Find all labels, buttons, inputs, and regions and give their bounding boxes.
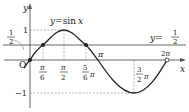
point-pi6 (41, 43, 45, 47)
point-2pi-open (165, 58, 169, 62)
x-tick-5pi6-num: 5 (83, 64, 87, 72)
sine-graph-figure: y x O 1 1 2 −1 y=sinx y= 1 2 π 6 π 2 5 6… (0, 0, 189, 112)
line-label: y= (149, 33, 163, 43)
x-tick-5pi6-pi: π (89, 71, 95, 79)
x-axis-label: x (180, 64, 185, 74)
y-tick-neg1: −1 (15, 89, 27, 98)
x-tick-pi2-den: 2 (61, 74, 65, 82)
x-tick-pi6-num: π (39, 64, 45, 72)
x-tick-pi2-num: π (60, 64, 66, 72)
x-tick-3pi2-pi: π (143, 73, 149, 81)
guide-lines (30, 30, 134, 93)
x-tick-pi6-den: 6 (40, 74, 45, 82)
y-axis-arrow-icon (28, 3, 32, 9)
x-axis-arrow-icon (180, 58, 186, 62)
x-tick-2pi: 2π (161, 50, 170, 58)
line-label-num: 1 (173, 29, 177, 37)
graph-canvas: y x O 1 1 2 −1 y=sinx y= 1 2 π 6 π 2 5 6… (0, 0, 189, 112)
y-tick-1: 1 (23, 26, 28, 35)
y-tick-half-num: 1 (9, 29, 13, 37)
y-axis-label: y (22, 3, 29, 13)
x-tick-3pi2-den: 2 (137, 76, 141, 84)
x-tick-pi: π (97, 50, 104, 59)
origin-label: O (19, 60, 26, 70)
y-tick-half-den: 2 (9, 38, 13, 46)
point-origin (28, 58, 32, 62)
line-label-den: 2 (173, 38, 177, 46)
sine-curve (24, 30, 167, 93)
point-5pi6 (84, 43, 88, 47)
x-tick-3pi2-num: 3 (137, 66, 141, 74)
x-tick-5pi6-den: 6 (83, 74, 88, 82)
curve-label: y=sinx (49, 16, 83, 26)
